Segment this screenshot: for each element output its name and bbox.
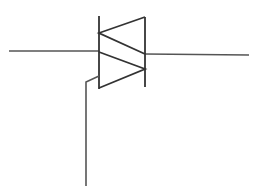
lower-triangle [99, 52, 145, 88]
gate-wire [86, 76, 99, 186]
triac-diagram: TRIAC symbol [0, 0, 263, 190]
triac-symbol-icon [0, 0, 263, 190]
mt2-wire [145, 54, 249, 55]
upper-triangle [99, 17, 145, 54]
